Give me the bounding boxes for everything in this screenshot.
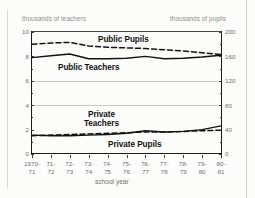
series-label-private-teachers: PrivateTeachers bbox=[84, 110, 119, 128]
series-label-public-teachers: Public Teachers bbox=[58, 63, 119, 72]
series-label-public-pupils: Public Pupils bbox=[98, 35, 149, 44]
series-label-private-pupils: Private Pupils bbox=[108, 140, 161, 149]
series-label-private-teachers-line1: Private bbox=[88, 110, 115, 119]
line-chart: thousands of teachers thousands of pupil… bbox=[0, 0, 255, 198]
x-axis-title: school year bbox=[95, 178, 129, 185]
page-background: thousands of teachers thousands of pupil… bbox=[0, 0, 255, 198]
series-line-public-pupils bbox=[32, 42, 221, 54]
series-line-public-teachers bbox=[32, 54, 221, 59]
series-line-layer bbox=[0, 0, 255, 198]
series-label-private-teachers-line2: Teachers bbox=[84, 119, 119, 128]
